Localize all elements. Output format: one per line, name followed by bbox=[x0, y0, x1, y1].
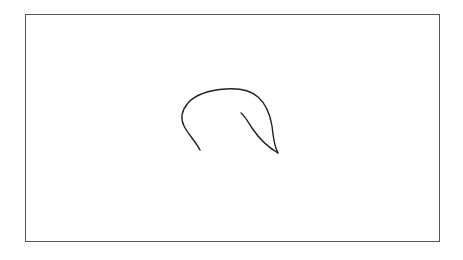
sketch-drawing bbox=[0, 0, 463, 260]
drawing-canvas[interactable] bbox=[0, 0, 463, 260]
sketch-stroke-outer-curve bbox=[182, 89, 278, 153]
